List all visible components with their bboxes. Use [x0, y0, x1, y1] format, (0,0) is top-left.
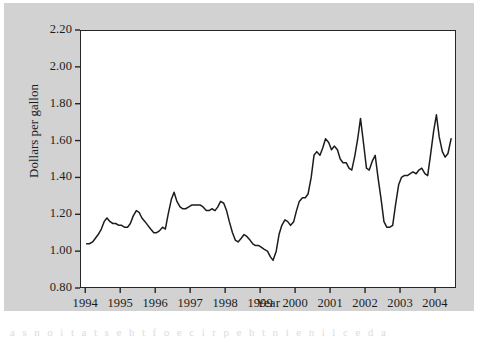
- figure-container: 0.801.001.201.401.601.802.002.20 1994199…: [0, 0, 478, 344]
- x-axis-ticks: [85, 288, 435, 293]
- y-axis-ticks: [75, 30, 80, 288]
- y-tick-label: 0.80: [4, 280, 72, 294]
- y-tick-label: 2.20: [4, 22, 72, 36]
- y-tick-label-text: 0.80: [10, 280, 72, 295]
- y-tick-label: 1.00: [4, 243, 72, 257]
- page-scan-artifact-text: a s n o i t a t s e h t f o e c i r p e …: [10, 326, 472, 338]
- y-axis-title: Dollars per gallon: [26, 51, 42, 211]
- gasoline-price-line: [87, 115, 451, 261]
- chart-canvas: [4, 3, 474, 311]
- chart-panel: 0.801.001.201.401.601.802.002.20 1994199…: [4, 3, 474, 311]
- y-tick-label-text: 2.20: [10, 22, 72, 37]
- y-tick-label-text: 1.00: [10, 243, 72, 258]
- x-axis-title: Year: [80, 295, 456, 311]
